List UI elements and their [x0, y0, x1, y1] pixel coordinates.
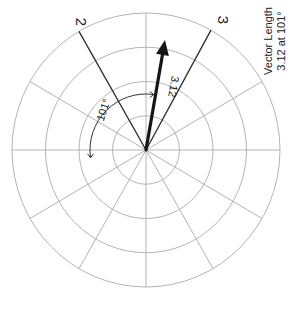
- reference-lines: [79, 30, 211, 150]
- grid-spoke: [146, 82, 262, 151]
- grid-spoke: [30, 150, 146, 219]
- reference-line-2: [79, 31, 146, 150]
- grid-spoke: [146, 150, 213, 269]
- vector-length-label: 3.12: [166, 75, 181, 98]
- line-3-label: 3: [215, 16, 232, 24]
- angle-label: 101°: [94, 97, 112, 122]
- line-2-label: 2: [73, 18, 90, 26]
- grid-spoke: [79, 150, 146, 269]
- vector-annotation: Vector Length 3.12 at 101°: [262, 7, 287, 75]
- polar-vector-diagram: 2 3 3.12 101° Vector Length 3.12 at 101°: [0, 0, 291, 330]
- annotation-title: Vector Length: [262, 7, 274, 75]
- grid-spoke: [30, 82, 146, 151]
- grid-spoke: [146, 150, 262, 219]
- annotation-value: 3.12 at 101°: [275, 11, 287, 70]
